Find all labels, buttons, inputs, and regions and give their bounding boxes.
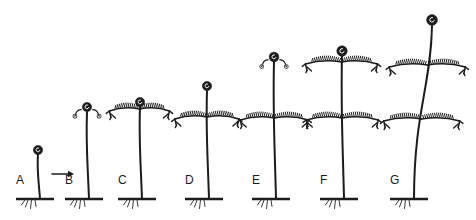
apex-bud [202, 81, 211, 90]
crozier-knob-icon [269, 52, 279, 62]
crozier-knob-icon [135, 97, 144, 106]
apex-bud [135, 97, 144, 106]
stage-label-c: C [118, 173, 127, 187]
apex-bud [33, 145, 42, 154]
crozier-knob-icon [337, 46, 347, 56]
stage-label-f: F [320, 173, 328, 187]
apex-bud [427, 15, 438, 26]
stage-label-d: D [185, 173, 194, 187]
fern-growth-diagram: ABCDEFG [0, 0, 476, 220]
apex-bud [337, 46, 347, 56]
growth-sequence-figure: ABCDEFG [0, 0, 476, 220]
crozier-knob-icon [33, 145, 42, 154]
crozier-knob-icon [427, 15, 438, 26]
crozier-knob-icon [82, 102, 91, 111]
stage-label-g: G [390, 173, 400, 187]
stage-label-e: E [252, 173, 260, 187]
crozier-knob-icon [202, 81, 211, 90]
figure-background [0, 0, 476, 220]
stage-label-a: A [16, 173, 24, 187]
